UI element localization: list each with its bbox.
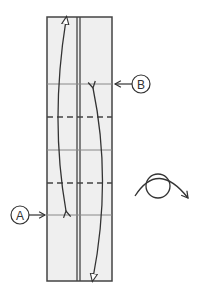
marker-b-label: B	[137, 78, 145, 92]
paper-strip	[47, 17, 112, 281]
marker-b: B	[115, 75, 150, 93]
turn-over-icon	[135, 174, 188, 198]
origami-diagram: B A	[0, 0, 202, 304]
marker-a: A	[11, 206, 45, 224]
marker-a-label: A	[16, 209, 24, 223]
